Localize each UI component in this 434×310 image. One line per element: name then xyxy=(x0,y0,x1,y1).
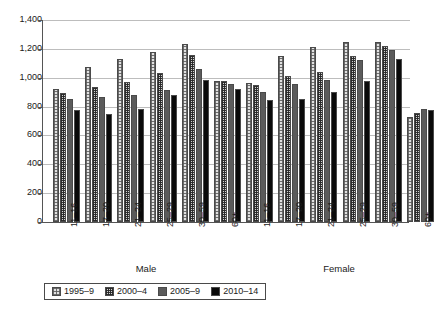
bar xyxy=(428,110,434,222)
legend-swatch-icon xyxy=(158,287,167,296)
bar xyxy=(350,56,356,222)
bar xyxy=(357,60,363,222)
x-tick-label: 25–29 xyxy=(359,202,368,227)
legend-label: 2000–4 xyxy=(117,287,147,296)
x-tick-label: 21–24 xyxy=(134,202,143,227)
legend-item[interactable]: 2010–14 xyxy=(211,287,258,296)
bar xyxy=(124,82,130,222)
legend-swatch-icon xyxy=(52,287,61,296)
legend-swatch-icon xyxy=(211,287,220,296)
bar xyxy=(310,47,316,222)
x-tick-label: 30–59 xyxy=(391,202,400,227)
bar-group xyxy=(278,20,305,222)
bar xyxy=(396,59,402,222)
bar xyxy=(228,84,234,222)
bar-group xyxy=(117,20,144,222)
y-tick-label: 1,200 xyxy=(4,44,42,53)
bar xyxy=(117,59,123,222)
bar xyxy=(203,80,209,222)
bar xyxy=(414,113,420,222)
bar-group xyxy=(53,20,80,222)
bar xyxy=(246,83,252,222)
x-tick-label: 17–20 xyxy=(102,202,111,227)
bar xyxy=(285,76,291,222)
bar xyxy=(324,80,330,222)
x-tick-label: 30–59 xyxy=(198,202,207,227)
bar-group xyxy=(343,20,370,222)
bar xyxy=(157,73,163,222)
x-tick-label: 11–16 xyxy=(263,203,272,227)
x-axis-line xyxy=(42,222,409,223)
bar xyxy=(382,46,388,222)
legend-item[interactable]: 2000–4 xyxy=(105,287,147,296)
y-axis: 02004006008001,0001,2001,400 xyxy=(0,0,42,310)
legend-item[interactable]: 1995–9 xyxy=(52,287,94,296)
bar xyxy=(221,81,227,222)
x-tick-label: 17–20 xyxy=(295,202,304,227)
bar xyxy=(189,55,195,222)
bar xyxy=(343,42,349,222)
bar xyxy=(278,56,284,222)
y-tick-label: 1,400 xyxy=(4,15,42,24)
y-tick-label: 200 xyxy=(4,188,42,197)
bar xyxy=(92,87,98,222)
y-tick-label: 1,000 xyxy=(4,73,42,82)
x-tick-label: 21–24 xyxy=(327,202,336,227)
bar-group xyxy=(246,20,273,222)
group-label-female: Female xyxy=(299,264,379,274)
bar-group xyxy=(182,20,209,222)
x-tick-label: 60+ xyxy=(424,212,433,227)
y-tick-label: 800 xyxy=(4,102,42,111)
y-tick-label: 400 xyxy=(4,159,42,168)
bar xyxy=(253,85,259,222)
legend-label: 2005–9 xyxy=(170,287,200,296)
bar xyxy=(214,81,220,222)
bar xyxy=(375,42,381,222)
y-tick-label: 600 xyxy=(4,130,42,139)
bar xyxy=(85,67,91,222)
bar xyxy=(407,117,413,222)
legend-item[interactable]: 2005–9 xyxy=(158,287,200,296)
bar xyxy=(421,109,427,222)
plot-area xyxy=(42,20,409,222)
bar xyxy=(389,50,395,222)
x-tick-label: 11–16 xyxy=(70,203,79,227)
bar xyxy=(53,89,59,222)
chart-legend: 1995–92000–42005–92010–14 xyxy=(44,283,266,300)
bar-group xyxy=(214,20,241,222)
bar xyxy=(182,44,188,222)
bar-group xyxy=(310,20,337,222)
x-tick-label: 60+ xyxy=(231,212,240,227)
x-tick-label: 25–29 xyxy=(166,202,175,227)
y-tick-label: 0 xyxy=(4,217,42,226)
legend-label: 2010–14 xyxy=(223,287,258,296)
bar-group xyxy=(407,20,434,222)
bar-group xyxy=(85,20,112,222)
bar xyxy=(235,89,241,222)
bar xyxy=(196,69,202,222)
legend-label: 1995–9 xyxy=(64,287,94,296)
group-label-male: Male xyxy=(106,264,186,274)
bar xyxy=(60,93,66,222)
bar xyxy=(364,81,370,222)
bar-group xyxy=(375,20,402,222)
bar-group xyxy=(150,20,177,222)
bar xyxy=(317,72,323,222)
bar xyxy=(150,52,156,222)
legend-swatch-icon xyxy=(105,287,114,296)
